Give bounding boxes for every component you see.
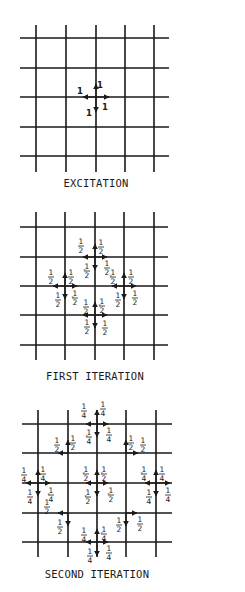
- grid-lines: [20, 212, 168, 360]
- value-label: 1: [102, 102, 108, 112]
- value-label: -12: [71, 289, 78, 307]
- pulse-arrow: 14: [97, 400, 106, 424]
- caption-second-iteration: SECOND ITERATION: [45, 568, 149, 580]
- value-label: -14: [140, 465, 147, 483]
- svg-text:1: 1: [111, 268, 116, 277]
- value-label: 14: [21, 466, 27, 484]
- svg-text:2: 2: [100, 306, 105, 315]
- svg-text:1: 1: [102, 525, 107, 534]
- value-label: 12: [102, 319, 108, 337]
- svg-text:1: 1: [22, 466, 27, 475]
- svg-text:1: 1: [166, 486, 171, 495]
- pulse-arrow: 1: [77, 86, 96, 97]
- pulse-arrow: 12: [57, 513, 68, 536]
- svg-text:1: 1: [160, 465, 165, 474]
- svg-text:1: 1: [71, 434, 76, 443]
- value-label: 12: [116, 516, 122, 534]
- value-label: 14: [100, 400, 106, 418]
- pulse-arrow: 14: [38, 465, 46, 483]
- svg-text:1: 1: [129, 268, 134, 277]
- svg-text:1: 1: [73, 289, 78, 298]
- svg-text:2: 2: [133, 298, 138, 307]
- svg-text:4: 4: [82, 411, 87, 420]
- value-label: -12: [83, 262, 90, 280]
- pulse-arrow: -12: [97, 483, 114, 504]
- svg-text:4: 4: [160, 474, 165, 483]
- svg-text:1: 1: [87, 428, 92, 437]
- pulse-arrow: -12: [82, 465, 97, 483]
- svg-text:1: 1: [142, 465, 147, 474]
- value-label: 12: [55, 291, 61, 309]
- svg-text:1: 1: [99, 238, 104, 247]
- svg-text:1: 1: [117, 516, 122, 525]
- svg-text:1: 1: [116, 291, 121, 300]
- svg-text:2: 2: [109, 495, 114, 504]
- pulse-arrow: 12: [124, 286, 138, 307]
- pulse-arrow: 14: [97, 424, 112, 444]
- value-label: -12: [98, 297, 105, 315]
- value-label: 14: [81, 402, 87, 420]
- svg-text:2: 2: [84, 474, 89, 483]
- svg-text:1: 1: [109, 486, 114, 495]
- pulse-arrow: 14: [27, 483, 38, 506]
- pulse-arrow: 14: [21, 466, 38, 484]
- value-label: 14: [40, 465, 46, 483]
- value-label: -12: [107, 486, 114, 504]
- value-label: 12: [140, 436, 146, 454]
- value-label: 12: [54, 436, 60, 454]
- value-label: 12: [115, 291, 121, 309]
- value-label: 12: [98, 238, 104, 256]
- pulse-arrow: 12: [95, 315, 108, 337]
- pulse-arrow: 14: [156, 483, 171, 504]
- svg-text:2: 2: [129, 443, 134, 452]
- value-label: 14: [165, 486, 171, 504]
- svg-text:1: 1: [101, 400, 106, 409]
- value-label: 14: [146, 488, 152, 506]
- svg-text:1: 1: [147, 488, 152, 497]
- pulse-arrow: 14: [97, 542, 112, 562]
- svg-text:2: 2: [45, 507, 50, 516]
- pulse-arrow: 12: [126, 434, 134, 453]
- svg-text:1: 1: [82, 402, 87, 411]
- svg-text:1: 1: [85, 262, 90, 271]
- svg-text:4: 4: [142, 474, 147, 483]
- svg-text:2: 2: [79, 246, 84, 255]
- value-label: 12: [132, 289, 138, 307]
- svg-text:2: 2: [49, 277, 54, 286]
- pulse-arrow: -12: [109, 268, 124, 286]
- svg-text:2: 2: [56, 300, 61, 309]
- svg-text:2: 2: [58, 527, 63, 536]
- svg-text:4: 4: [41, 474, 46, 483]
- tlm-scattering-diagram: 1111EXCITATION 121212-121212-121212-1212…: [0, 0, 245, 592]
- svg-text:1: 1: [141, 436, 146, 445]
- pulse-arrow: 12: [95, 257, 110, 277]
- svg-text:2: 2: [85, 327, 90, 336]
- svg-text:4: 4: [166, 495, 171, 504]
- value-label: 14: [159, 465, 165, 483]
- value-label: 12: [68, 268, 74, 286]
- pulse-arrow: 1: [96, 97, 109, 112]
- pulse-arrow: 12: [55, 286, 65, 309]
- svg-text:1: 1: [86, 488, 91, 497]
- value-label: 14: [106, 426, 112, 444]
- svg-text:4: 4: [22, 475, 27, 484]
- pulse-arrow: 12: [54, 436, 68, 454]
- pulse-arrow: -14: [85, 424, 97, 446]
- pulse-arrow: -12: [65, 286, 78, 307]
- svg-text:1: 1: [49, 268, 54, 277]
- svg-text:1: 1: [103, 319, 108, 328]
- svg-text:4: 4: [87, 437, 92, 446]
- value-label: -14: [100, 525, 107, 543]
- svg-text:1: 1: [86, 108, 92, 118]
- svg-text:2: 2: [102, 474, 107, 483]
- pulse-arrows: 1111: [77, 80, 109, 118]
- value-label: 12: [57, 518, 63, 536]
- svg-text:2: 2: [138, 524, 143, 533]
- svg-text:2: 2: [73, 298, 78, 307]
- svg-text:2: 2: [103, 328, 108, 337]
- pulse-arrow: 12: [84, 315, 95, 336]
- value-label: 14: [81, 526, 87, 544]
- caption-first-iteration: FIRST ITERATION: [46, 370, 144, 382]
- value-label: 12: [44, 498, 50, 516]
- svg-text:1: 1: [138, 515, 143, 524]
